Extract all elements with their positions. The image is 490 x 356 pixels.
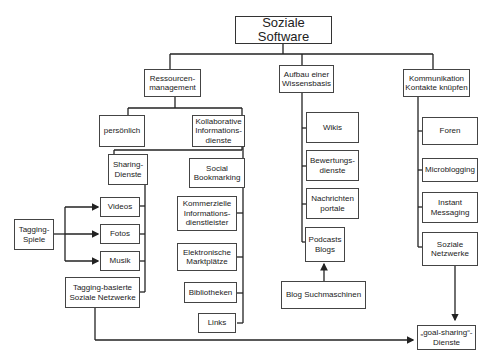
node-kommerzielle-informationsdienstleister: Kommerzielle Informations- dienstleister [177,196,237,231]
node-social-bookmarking: Social Bookmarking [189,158,245,188]
node-musik: Musik [100,251,140,271]
node-bewertungsdienste: Bewertungs- dienste [306,150,359,181]
node-videos: Videos [100,197,140,217]
node-microblogging: Microblogging [422,158,478,182]
node-fotos: Fotos [100,224,140,244]
node-goal-sharing-dienste: „goal-sharing“- Dienste [417,325,476,350]
branch-kommunikation: Kommunikation Kontakte knüpfen [403,69,470,97]
node-nachrichtenportale: Nachrichten portale [306,188,359,219]
node-sharing-dienste: Sharing- Dienste [108,154,148,185]
node-instant-messaging: Instant Messaging [422,192,478,223]
node-blog-suchmaschinen: Blog Suchmaschinen [281,281,366,309]
node-wikis: Wikis [306,112,359,143]
node-soziale-netzwerke: Soziale Netzwerke [422,232,478,266]
root-soziale-software: Soziale Software [235,16,332,44]
node-persoenlich: persönlich [99,115,145,147]
node-foren: Foren [422,117,478,145]
branch-wissensbasis: Aufbau einer Wissensbasis [279,65,334,93]
node-tagging-basierte-netzwerke: Tagging-basierte Soziale Netzwerke [65,277,140,308]
node-kollaborative-informationsdienste: Kollaborative Informations- dienste [192,115,245,147]
node-tagging-spiele: Tagging- Spiele [14,219,54,250]
node-links: Links [198,313,236,333]
node-elektronische-marktplaetze: Elektronische Marktplätze [177,243,237,271]
node-bibliotheken: Bibliotheken [184,282,237,303]
node-podcasts-blogs: Podcasts Blogs [305,227,345,262]
branch-ressourcenmanagement: Ressourcen- management [144,69,201,97]
